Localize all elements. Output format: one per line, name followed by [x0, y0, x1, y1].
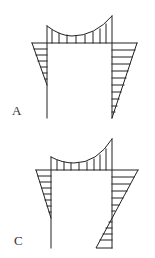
right-column-moment-a [112, 43, 137, 118]
beam-moment-curve-c [51, 139, 112, 163]
moment-diagrams [0, 0, 155, 258]
right-column-moment-c [96, 170, 138, 248]
figure-label-a: A [12, 104, 21, 117]
beam-moment-curve-a [47, 16, 112, 36]
figure-label-c: C [14, 234, 23, 247]
right-column-upper-hatching-c [112, 177, 134, 211]
figure-a [32, 16, 137, 118]
beam-hatching-c [57, 149, 106, 170]
figure-c [36, 139, 138, 248]
